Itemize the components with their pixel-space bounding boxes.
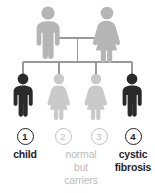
child-2-body-skirt — [47, 85, 69, 120]
legend-label-carriers-line1: normal — [38, 148, 124, 161]
legend-label-carriers-line2: but — [38, 161, 124, 174]
legend-number-3: 3 — [91, 128, 108, 145]
child-4-head — [127, 74, 138, 85]
mother-head — [101, 7, 114, 20]
child-3-head — [91, 74, 101, 84]
legend-column-2: 2 — [43, 128, 83, 145]
father-head — [41, 6, 54, 19]
child-2-head — [54, 74, 64, 84]
child-1-head — [18, 74, 29, 85]
child-4-body — [123, 86, 142, 117]
pedigree-legend: 1 child 2 3 4 cystic fibrosis normal but… — [0, 128, 155, 193]
child-figure-3 — [84, 74, 106, 120]
child-1-body — [14, 86, 33, 117]
parent-figure-mother — [93, 7, 120, 63]
pedigree-diagram: 1 child 2 3 4 cystic fibrosis normal but… — [0, 0, 155, 193]
legend-number-1: 1 — [17, 128, 34, 145]
child-figure-2 — [47, 74, 69, 120]
child-figure-4 — [123, 74, 142, 117]
mother-body-skirt — [93, 21, 120, 63]
parent-figure-father — [37, 6, 60, 59]
child-3-body-skirt — [84, 85, 106, 120]
legend-number-2: 2 — [55, 128, 72, 145]
child-figure-1 — [14, 74, 33, 117]
legend-number-4: 4 — [125, 128, 142, 145]
legend-label-normal-but-carriers: normal but carriers — [38, 148, 124, 187]
legend-label-carriers-line3: carriers — [38, 174, 124, 187]
father-body — [37, 21, 60, 59]
